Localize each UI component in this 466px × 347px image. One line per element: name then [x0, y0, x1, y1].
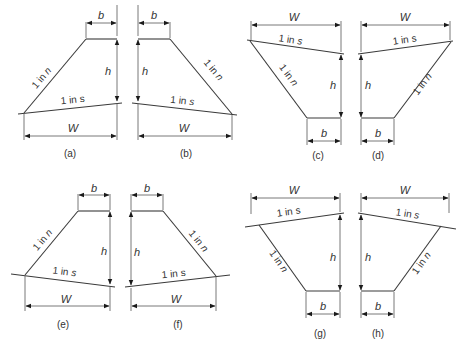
- slope-s-label: 1 in s: [276, 204, 301, 218]
- panel-caption: (g): [314, 328, 326, 339]
- slope-n-label: 1 in n: [30, 227, 54, 253]
- h-label: h: [105, 65, 111, 77]
- panel-caption: (h): [372, 328, 384, 339]
- panel-b: b 1 in n h 1 in s W (b): [132, 5, 237, 159]
- panel-caption: (d): [372, 150, 384, 161]
- cross-section-figure: b 1 in n h 1 in s W (a) b 1 in n h 1 in …: [0, 0, 466, 347]
- panel-d: W 1 in s 1 in n h b (d): [358, 11, 453, 161]
- slope-n-label: 1 in n: [267, 248, 290, 275]
- h-label: h: [101, 245, 107, 257]
- b-label: b: [144, 182, 150, 194]
- w-label: W: [400, 11, 412, 23]
- slope-n-label: 1 in n: [187, 228, 211, 254]
- w-label: W: [68, 122, 80, 134]
- w-label: W: [61, 293, 73, 305]
- w-label: W: [400, 184, 412, 196]
- slope-n-label: 1 in n: [29, 65, 53, 91]
- w-label: W: [179, 122, 191, 134]
- panel-f: b 1 in n h 1 in s W (f): [125, 182, 230, 330]
- slope-n-label: 1 in n: [410, 249, 434, 276]
- h-label: h: [330, 251, 336, 263]
- panel-h: W 1 in s 1 in n h b (h): [358, 184, 456, 339]
- w-label: W: [171, 293, 183, 305]
- slope-s-label: 1 in s: [170, 94, 195, 107]
- b-label: b: [321, 127, 327, 139]
- w-label: W: [289, 11, 301, 23]
- panel-caption: (e): [57, 319, 69, 330]
- slope-s-label: 1 in s: [161, 267, 186, 280]
- h-label: h: [330, 79, 336, 91]
- b-label: b: [98, 9, 104, 21]
- b-label: b: [375, 127, 381, 139]
- h-label: h: [365, 251, 371, 263]
- b-label: b: [375, 300, 381, 312]
- h-label: h: [134, 246, 140, 258]
- panel-caption: (c): [312, 150, 324, 161]
- slope-n-label: 1 in n: [277, 62, 301, 89]
- panel-e: b 1 in n h 1 in s W (e): [11, 182, 115, 330]
- panel-caption: (b): [180, 148, 192, 159]
- panel-caption: (f): [173, 319, 182, 330]
- slope-n-label: 1 in n: [202, 57, 226, 83]
- panel-c: W 1 in s 1 in n h b (c): [247, 11, 344, 161]
- panel-caption: (a): [64, 148, 76, 159]
- h-label: h: [365, 79, 371, 91]
- panel-a: b 1 in n h 1 in s W (a): [18, 5, 122, 159]
- h-label: h: [142, 65, 148, 77]
- b-label: b: [91, 182, 97, 194]
- slope-s-label: 1 in s: [395, 206, 420, 221]
- slope-s-label: 1 in s: [60, 93, 85, 106]
- b-label: b: [151, 9, 157, 21]
- slope-s-label: 1 in s: [392, 32, 417, 46]
- slope-n-label: 1 in n: [410, 70, 434, 97]
- w-label: W: [289, 184, 301, 196]
- slope-s-label: 1 in s: [52, 265, 77, 279]
- b-label: b: [320, 300, 326, 312]
- panel-g: W 1 in s 1 in n h b (g): [245, 184, 344, 339]
